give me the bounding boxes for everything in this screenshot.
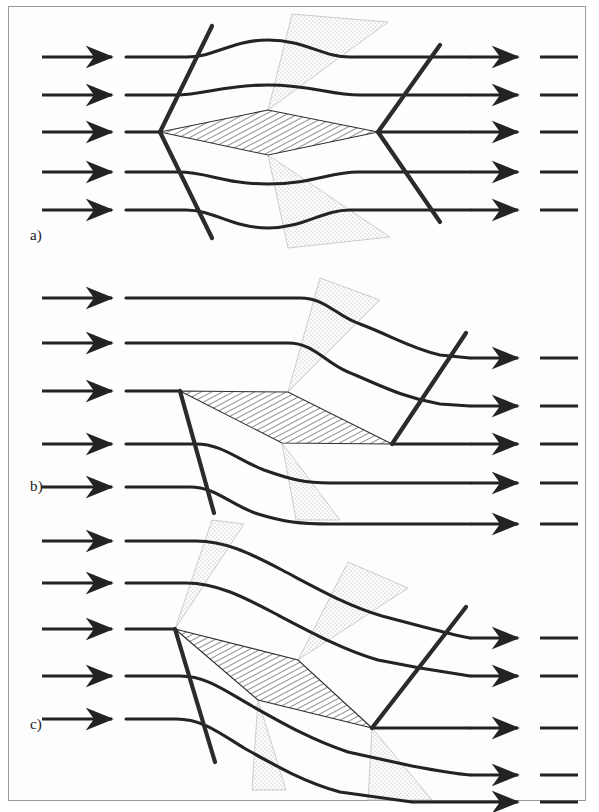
shock-leading-lower [180, 391, 214, 513]
airfoil-section-c [175, 629, 372, 728]
shock-leading-upper [160, 26, 212, 132]
panel-a [42, 14, 578, 248]
panel-b-outlet-arrows [470, 358, 578, 524]
shock-leading-lower [160, 132, 212, 238]
expansion-fan-upper [288, 278, 380, 392]
panel-label-b: b) [30, 478, 43, 495]
panel-b-outlet-dashes [540, 358, 578, 524]
panel-a-outlet-dashes [540, 57, 578, 210]
airfoil-section-a [160, 110, 378, 155]
panel-c-inlet-arrows [42, 541, 112, 719]
panel-a-inlet-arrows [42, 57, 112, 210]
panel-b-inlet-arrows [42, 298, 112, 487]
panel-c-outlet-arrows [412, 638, 578, 802]
shock-trailing [392, 333, 466, 444]
streamline [126, 298, 470, 358]
expansion-fan-lower [268, 155, 390, 248]
figure-supersonic-airfoil-flow: a) b) c) [0, 0, 599, 812]
expansion-fan-upper-mid [298, 562, 408, 660]
panel-a-outlet-arrows [470, 57, 578, 210]
panel-label-c: c) [30, 716, 42, 733]
panel-c-outlet-dashes [540, 638, 578, 802]
panel-c [42, 520, 578, 802]
expansion-fan-lower-mid [252, 700, 286, 790]
expansion-fan-upper-leading [175, 520, 244, 629]
flow-diagram-canvas [0, 0, 599, 812]
panel-label-a: a) [30, 227, 42, 244]
panel-b [42, 278, 578, 524]
airfoil-section-b [180, 391, 392, 444]
